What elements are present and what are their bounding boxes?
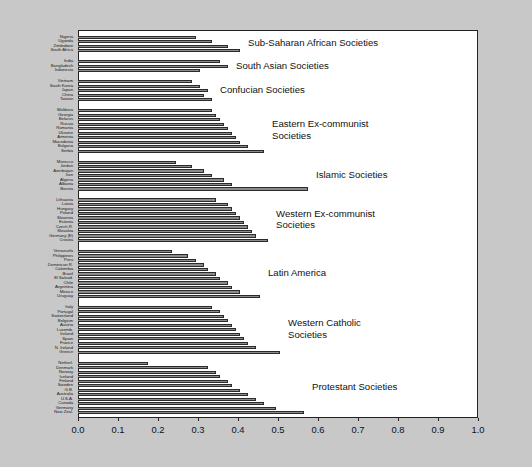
bar[interactable] — [78, 362, 148, 365]
bar[interactable] — [78, 145, 248, 148]
bar[interactable] — [78, 333, 240, 336]
bar[interactable] — [78, 216, 240, 219]
bar[interactable] — [78, 85, 200, 88]
bar[interactable] — [78, 366, 208, 369]
bar[interactable] — [78, 411, 304, 414]
bar[interactable] — [78, 174, 212, 177]
bar[interactable] — [78, 324, 232, 327]
bar[interactable] — [78, 141, 240, 144]
bar-row — [78, 234, 478, 237]
bar[interactable] — [78, 398, 256, 401]
bar[interactable] — [78, 94, 204, 97]
bar[interactable] — [78, 150, 264, 153]
group-annotation-eastern-ex-communist: Eastern Ex-communist Societies — [272, 118, 369, 141]
bar[interactable] — [78, 281, 228, 284]
bar[interactable] — [78, 98, 212, 101]
bar[interactable] — [78, 295, 260, 298]
group-annotation-protestant-societies: Protestant Societies — [312, 381, 397, 392]
bar[interactable] — [78, 384, 232, 387]
bar-row — [78, 161, 478, 164]
bar-row — [78, 109, 478, 112]
bar[interactable] — [78, 178, 224, 181]
bar[interactable] — [78, 36, 196, 39]
bar[interactable] — [78, 310, 220, 313]
bar-row — [78, 319, 478, 322]
bar[interactable] — [78, 132, 232, 135]
bar[interactable] — [78, 315, 224, 318]
bar[interactable] — [78, 250, 172, 253]
bar-row — [78, 366, 478, 369]
bar-row — [78, 281, 478, 284]
bar[interactable] — [78, 40, 212, 43]
bar[interactable] — [78, 375, 220, 378]
bar[interactable] — [78, 207, 232, 210]
bar-row — [78, 393, 478, 396]
bar[interactable] — [78, 127, 228, 130]
bar[interactable] — [78, 49, 240, 52]
bar-row — [78, 375, 478, 378]
bar[interactable] — [78, 212, 236, 215]
bar[interactable] — [78, 371, 216, 374]
bar[interactable] — [78, 337, 244, 340]
bar[interactable] — [78, 123, 224, 126]
bar[interactable] — [78, 203, 228, 206]
bar[interactable] — [78, 268, 208, 271]
bar[interactable] — [78, 60, 220, 63]
bar-row — [78, 407, 478, 410]
bar[interactable] — [78, 169, 204, 172]
bar[interactable] — [78, 69, 200, 72]
bar[interactable] — [78, 187, 308, 190]
bar[interactable] — [78, 319, 228, 322]
bar[interactable] — [78, 225, 248, 228]
bar[interactable] — [78, 393, 248, 396]
bar[interactable] — [78, 402, 264, 405]
bar[interactable] — [78, 259, 196, 262]
bar[interactable] — [78, 306, 212, 309]
bar-row — [78, 398, 478, 401]
bar-row — [78, 342, 478, 345]
bar[interactable] — [78, 89, 208, 92]
bar-row — [78, 286, 478, 289]
bar[interactable] — [78, 277, 220, 280]
bar-row — [78, 49, 478, 52]
bar[interactable] — [78, 114, 216, 117]
bar[interactable] — [78, 286, 232, 289]
bar[interactable] — [78, 109, 212, 112]
bar[interactable] — [78, 198, 216, 201]
bar-row — [78, 254, 478, 257]
group-annotation-south-asian-societies: South Asian Societies — [236, 60, 329, 71]
bar[interactable] — [78, 165, 192, 168]
bar[interactable] — [78, 272, 216, 275]
x-tick-mark — [318, 418, 319, 421]
category-axis-labels: NigeriaUgandaZimbabweSouth AfricaIndiaBa… — [0, 30, 76, 418]
x-tick-label: 0.5 — [271, 424, 284, 435]
x-tick-label: 0.4 — [231, 424, 244, 435]
bar[interactable] — [78, 290, 240, 293]
bar[interactable] — [78, 234, 256, 237]
bar[interactable] — [78, 380, 228, 383]
x-tick-label: 0.6 — [311, 424, 324, 435]
bar[interactable] — [78, 254, 188, 257]
bar-row — [78, 384, 478, 387]
bar[interactable] — [78, 80, 192, 83]
bar[interactable] — [78, 389, 240, 392]
bar[interactable] — [78, 328, 236, 331]
category-label-bosnia: Bosnia — [60, 187, 73, 191]
x-tick-label: 0.2 — [151, 424, 164, 435]
bar[interactable] — [78, 346, 256, 349]
x-tick-mark — [198, 418, 199, 421]
bar[interactable] — [78, 221, 244, 224]
bar[interactable] — [78, 230, 252, 233]
bar[interactable] — [78, 136, 236, 139]
bar[interactable] — [78, 118, 220, 121]
bar[interactable] — [78, 65, 228, 68]
group-annotation-sub-saharan-african-societies: Sub-Saharan African Societies — [248, 37, 378, 48]
bar[interactable] — [78, 263, 204, 266]
bar[interactable] — [78, 45, 228, 48]
bar[interactable] — [78, 183, 232, 186]
bar[interactable] — [78, 351, 280, 354]
bar[interactable] — [78, 239, 268, 242]
bar[interactable] — [78, 161, 176, 164]
bar[interactable] — [78, 342, 248, 345]
bar[interactable] — [78, 407, 276, 410]
